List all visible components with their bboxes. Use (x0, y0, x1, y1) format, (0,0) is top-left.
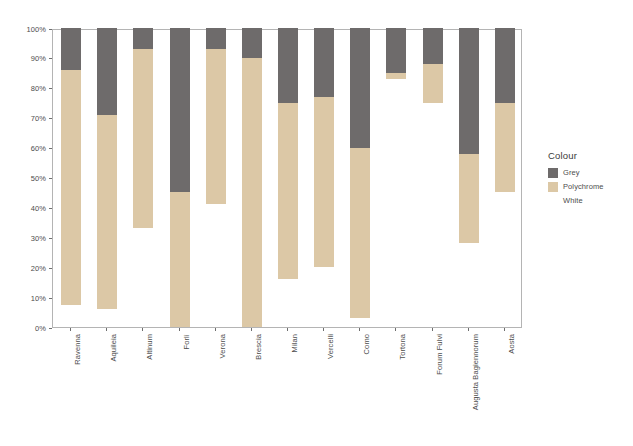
bar-group[interactable] (350, 30, 370, 327)
y-axis-tick-label: 30% (31, 234, 46, 243)
bar-segment-polychrome[interactable] (459, 154, 479, 244)
bar-segment-white[interactable] (459, 243, 479, 327)
bar-group[interactable] (314, 30, 334, 327)
legend-item-label: Polychrome (563, 182, 604, 191)
bar-segment-polychrome[interactable] (133, 49, 153, 228)
x-axis-tick-label: Ravenna (73, 334, 82, 365)
x-axis-tick-label: Aosta (507, 334, 516, 354)
bar-segment-polychrome[interactable] (314, 97, 334, 267)
bar-group[interactable] (242, 30, 262, 327)
bar-group[interactable] (133, 30, 153, 327)
x-axis-tick-label: Milan (290, 334, 299, 352)
bar-segment-white[interactable] (495, 192, 515, 327)
y-axis-tick-label: 50% (31, 174, 46, 183)
legend-item[interactable]: Polychrome (548, 180, 630, 193)
bar-segment-grey[interactable] (386, 28, 406, 73)
x-axis-tick-mark (70, 328, 71, 331)
bars-layer (53, 30, 521, 327)
bar-group[interactable] (495, 30, 515, 327)
bar-segment-grey[interactable] (97, 28, 117, 115)
bar-segment-grey[interactable] (350, 28, 370, 148)
bar-segment-polychrome[interactable] (242, 58, 262, 327)
x-axis-tick-label: Altinum (145, 334, 154, 360)
bar-segment-white[interactable] (314, 267, 334, 327)
y-axis-tick-label: 20% (31, 264, 46, 273)
y-axis-tick: 80% (31, 83, 52, 95)
y-axis-tick: 50% (31, 173, 52, 185)
x-axis-tick-label: Tortona (398, 334, 407, 360)
legend-item-label: Grey (563, 168, 580, 177)
x-axis-tick-label: Vercelli (326, 334, 335, 359)
bar-segment-white[interactable] (386, 79, 406, 327)
bar-segment-polychrome[interactable] (278, 103, 298, 279)
y-axis-tick: 70% (31, 113, 52, 125)
x-axis-tick-mark (106, 328, 107, 331)
x-axis-tick-label: Aquileia (109, 334, 118, 362)
x-axis-tick-mark (179, 328, 180, 331)
bar-segment-white[interactable] (61, 305, 81, 327)
legend-items: GreyPolychromeWhite (548, 166, 630, 207)
bar-group[interactable] (459, 30, 479, 327)
bar-segment-grey[interactable] (133, 28, 153, 49)
bar-segment-polychrome[interactable] (61, 70, 81, 305)
bar-segment-polychrome[interactable] (423, 64, 443, 103)
bar-segment-grey[interactable] (495, 28, 515, 103)
legend: Colour GreyPolychromeWhite (548, 150, 630, 208)
bar-group[interactable] (386, 30, 406, 327)
bar-group[interactable] (61, 30, 81, 327)
y-axis-tick-label: 80% (31, 84, 46, 93)
bar-segment-white[interactable] (97, 309, 117, 327)
y-axis-tick: 90% (31, 53, 52, 65)
bar-segment-polychrome[interactable] (350, 148, 370, 318)
legend-title: Colour (548, 150, 630, 161)
bar-segment-grey[interactable] (314, 28, 334, 97)
bar-segment-grey[interactable] (61, 28, 81, 70)
bar-segment-polychrome[interactable] (206, 49, 226, 204)
y-axis-tick-label: 90% (31, 54, 46, 63)
bar-segment-grey[interactable] (242, 28, 262, 58)
bar-segment-grey[interactable] (423, 28, 443, 64)
plot-panel (52, 29, 522, 328)
y-axis-tick-label: 70% (31, 114, 46, 123)
bar-segment-white[interactable] (278, 279, 298, 327)
chart-figure: 0%10%20%30%40%50%60%70%80%90%100% Ravenn… (0, 0, 633, 446)
bar-segment-grey[interactable] (170, 28, 190, 192)
bar-group[interactable] (423, 30, 443, 327)
x-axis-tick-mark (504, 328, 505, 331)
bar-group[interactable] (170, 30, 190, 327)
x-axis-tick-label: Como (362, 334, 371, 354)
y-axis-tick-label: 0% (35, 324, 46, 333)
bar-segment-polychrome[interactable] (170, 192, 190, 327)
bar-segment-polychrome[interactable] (97, 115, 117, 309)
y-axis-tick: 40% (31, 202, 52, 214)
y-axis: 0%10%20%30%40%50%60%70%80%90%100% (0, 29, 52, 328)
x-axis-tick-mark (432, 328, 433, 331)
y-axis-tick: 10% (31, 292, 52, 304)
x-axis-tick-mark (395, 328, 396, 331)
legend-swatch-polychrome (548, 182, 558, 192)
bar-segment-white[interactable] (423, 103, 443, 327)
bar-group[interactable] (278, 30, 298, 327)
bar-segment-polychrome[interactable] (386, 73, 406, 79)
legend-item[interactable]: White (548, 194, 630, 207)
y-axis-tick-label: 100% (26, 25, 46, 34)
bar-segment-grey[interactable] (206, 28, 226, 49)
bar-segment-white[interactable] (206, 204, 226, 327)
bar-segment-grey[interactable] (278, 28, 298, 103)
bar-segment-grey[interactable] (459, 28, 479, 154)
bar-group[interactable] (97, 30, 117, 327)
x-axis-tick-mark (359, 328, 360, 331)
x-axis-tick-mark (287, 328, 288, 331)
x-axis: RavennaAquileiaAltinumForlìVeronaBrescia… (52, 328, 522, 440)
legend-swatch-grey (548, 168, 558, 178)
bar-segment-white[interactable] (133, 228, 153, 327)
legend-item[interactable]: Grey (548, 166, 630, 179)
bar-segment-white[interactable] (350, 318, 370, 327)
bar-group[interactable] (206, 30, 226, 327)
x-axis-tick-label: Brescia (254, 334, 263, 360)
legend-item-label: White (563, 196, 583, 205)
y-axis-tick: 20% (31, 262, 52, 274)
bar-segment-polychrome[interactable] (495, 103, 515, 193)
x-axis-tick-label: Forlì (182, 334, 191, 350)
y-axis-tick: 0% (35, 322, 52, 334)
